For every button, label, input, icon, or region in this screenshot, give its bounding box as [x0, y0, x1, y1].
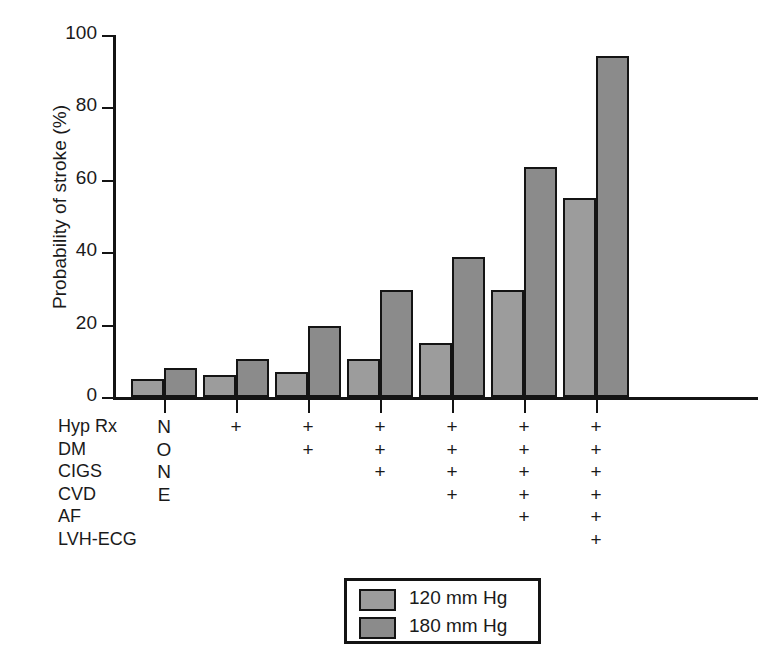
y-tick-mark: [102, 252, 113, 254]
bar-7-120: [563, 198, 596, 397]
risk-mark-5-hyp-rx: +: [437, 416, 467, 438]
risk-row-label-hyp-rx: Hyp Rx: [58, 416, 117, 437]
x-tick-3: [308, 400, 310, 413]
risk-row-label-cvd: CVD: [58, 484, 96, 505]
y-axis-label: Probability of stroke (%): [49, 37, 71, 377]
x-tick-5: [452, 400, 454, 413]
risk-mark-3-hyp-rx: +: [293, 416, 323, 438]
bar-6-120: [491, 290, 524, 397]
legend-swatch-120-icon: [359, 589, 396, 611]
y-tick-label: 60: [76, 167, 97, 189]
risk-row-label-lvh-ecg: LVH-ECG: [58, 529, 137, 550]
risk-mark-5-cigs: +: [437, 461, 467, 483]
y-tick-label: 80: [76, 94, 97, 116]
x-tick-4: [380, 400, 382, 413]
bar-6-180: [524, 167, 557, 397]
bar-1-120: [131, 379, 164, 397]
y-tick-mark: [102, 397, 113, 399]
risk-mark-4-dm: +: [365, 439, 395, 461]
y-axis-line: [113, 35, 116, 397]
bar-4-180: [380, 290, 413, 397]
risk-mark-7-af: +: [581, 506, 611, 528]
chart-legend: 120 mm Hg 180 mm Hg: [344, 578, 541, 644]
risk-mark-6-af: +: [509, 506, 539, 528]
y-tick-label: 0: [86, 384, 97, 406]
risk-mark-5-cvd: +: [437, 484, 467, 506]
risk-mark-7-lvh-ecg: +: [581, 529, 611, 551]
risk-mark-6-hyp-rx: +: [509, 416, 539, 438]
risk-mark-4-hyp-rx: +: [365, 416, 395, 438]
legend-label-120: 120 mm Hg: [409, 587, 507, 609]
y-tick-mark: [102, 35, 113, 37]
bar-5-120: [419, 343, 452, 397]
risk-mark-4-cigs: +: [365, 461, 395, 483]
x-tick-6: [524, 400, 526, 413]
risk-row-label-af: AF: [58, 506, 81, 527]
y-tick-label: 20: [76, 312, 97, 334]
bar-5-180: [452, 257, 485, 397]
bar-7-180: [596, 56, 629, 397]
risk-row-label-dm: DM: [58, 439, 86, 460]
risk-baseline-letter-1: O: [149, 439, 179, 461]
risk-mark-7-dm: +: [581, 439, 611, 461]
bar-1-180: [164, 368, 197, 397]
risk-mark-6-cigs: +: [509, 461, 539, 483]
y-tick-mark: [102, 325, 113, 327]
x-tick-1: [164, 400, 166, 413]
risk-mark-7-cigs: +: [581, 461, 611, 483]
plot-area: 020406080100: [113, 35, 758, 397]
y-tick-mark: [102, 107, 113, 109]
risk-mark-6-dm: +: [509, 439, 539, 461]
risk-baseline-letter-3: E: [149, 484, 179, 506]
x-tick-2: [236, 400, 238, 413]
y-tick-mark: [102, 180, 113, 182]
legend-label-180: 180 mm Hg: [409, 615, 507, 637]
y-tick-label: 100: [65, 22, 97, 44]
bar-4-120: [347, 359, 380, 397]
bar-3-120: [275, 372, 308, 397]
risk-mark-5-dm: +: [437, 439, 467, 461]
y-tick-label: 40: [76, 239, 97, 261]
risk-mark-7-hyp-rx: +: [581, 416, 611, 438]
bar-2-180: [236, 359, 269, 397]
risk-mark-7-cvd: +: [581, 484, 611, 506]
bar-3-180: [308, 326, 341, 397]
risk-mark-2-hyp-rx: +: [221, 416, 251, 438]
risk-baseline-letter-0: N: [149, 416, 179, 438]
stroke-probability-bar-chart: Probability of stroke (%) 020406080100 H…: [0, 0, 776, 664]
x-tick-7: [596, 400, 598, 413]
risk-factor-table: Hyp RxDMCIGSCVDAFLVH-ECGNONE++++++++++++…: [58, 416, 758, 566]
risk-mark-3-dm: +: [293, 439, 323, 461]
risk-row-label-cigs: CIGS: [58, 461, 102, 482]
x-axis-line: [113, 397, 758, 400]
legend-swatch-180-icon: [359, 617, 396, 639]
risk-baseline-letter-2: N: [149, 461, 179, 483]
bar-2-120: [203, 375, 236, 397]
risk-mark-6-cvd: +: [509, 484, 539, 506]
